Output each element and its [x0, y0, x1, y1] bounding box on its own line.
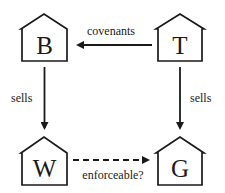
node-g-label: G [171, 155, 189, 182]
diagram-canvas: B T W G covenants sells sells enforceabl… [0, 0, 225, 193]
node-b-label: B [36, 32, 53, 59]
edge-t-g-label: sells [190, 91, 212, 105]
edge-b-w-label: sells [11, 91, 33, 105]
node-w: W [21, 137, 67, 185]
node-t: T [156, 14, 204, 61]
edge-t-sells-g: sells [180, 67, 212, 128]
node-b: B [21, 14, 67, 61]
edge-covenants-label: covenants [87, 24, 135, 38]
node-w-label: W [33, 155, 57, 182]
node-t-label: T [172, 32, 187, 59]
edge-enforceable-label: enforceable? [82, 168, 143, 182]
edge-b-sells-w: sells [11, 67, 45, 128]
edge-enforceable: enforceable? [73, 160, 148, 182]
node-g: G [156, 137, 204, 185]
edge-covenants: covenants [78, 24, 152, 45]
